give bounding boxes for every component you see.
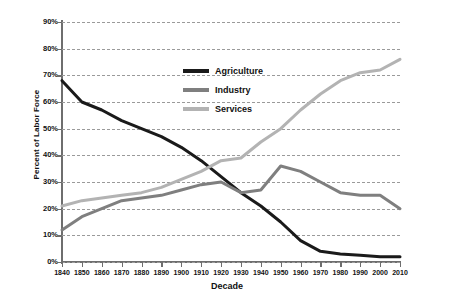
gridline: [62, 262, 400, 263]
x-axis-tick-mark: [320, 262, 321, 267]
legend-label: Services: [215, 104, 252, 114]
y-axis-tick-mark: [57, 75, 62, 76]
series-line-industry: [62, 166, 400, 230]
legend-swatch-icon: [183, 107, 209, 111]
x-axis-tick-mark: [82, 262, 83, 267]
y-axis-tick-label: 70%: [0, 70, 58, 79]
gridline: [62, 49, 400, 50]
y-axis-tick-mark: [57, 129, 62, 130]
y-axis-tick-mark: [57, 182, 62, 183]
y-axis-tick-label: 10%: [0, 230, 58, 239]
gridline: [62, 209, 400, 210]
y-axis-tick-mark: [57, 155, 62, 156]
x-axis-tick-mark: [201, 262, 202, 267]
legend-swatch-icon: [183, 69, 209, 73]
x-axis-tick-mark: [181, 262, 182, 267]
x-axis-tick-mark: [340, 262, 341, 267]
y-axis-tick-label: 90%: [0, 17, 58, 26]
legend-swatch-icon: [183, 88, 209, 92]
y-axis-tick-label: 60%: [0, 97, 58, 106]
y-axis-tick-label: 50%: [0, 124, 58, 133]
x-axis-tick-mark: [142, 262, 143, 267]
x-axis-tick-mark: [400, 262, 401, 267]
legend-item-services[interactable]: Services: [183, 104, 263, 114]
x-axis-tick-mark: [281, 262, 282, 267]
gridline: [62, 155, 400, 156]
y-axis-tick-mark: [57, 102, 62, 103]
y-axis-tick-label: 40%: [0, 150, 58, 159]
x-axis-tick-mark: [221, 262, 222, 267]
x-axis-tick-label: 2010: [387, 269, 413, 276]
gridline: [62, 235, 400, 236]
x-axis-tick-mark: [301, 262, 302, 267]
y-axis-tick-label: 30%: [0, 177, 58, 186]
gridline: [62, 22, 400, 23]
x-axis-tick-mark: [62, 262, 63, 267]
x-axis-tick-mark: [122, 262, 123, 267]
y-axis-line: [61, 20, 63, 264]
legend-label: Industry: [215, 85, 251, 95]
x-axis-tick-mark: [102, 262, 103, 267]
y-axis-tick-mark: [57, 235, 62, 236]
gridline: [62, 182, 400, 183]
legend-label: Agriculture: [215, 66, 263, 76]
y-axis-tick-mark: [57, 22, 62, 23]
gridline: [62, 129, 400, 130]
legend-item-industry[interactable]: Industry: [183, 85, 263, 95]
y-axis-tick-label: 20%: [0, 204, 58, 213]
line-chart: Percent of Labor Force Decade 0%10%20%30…: [0, 0, 454, 307]
x-axis-title: Decade: [0, 281, 454, 291]
x-axis-tick-mark: [261, 262, 262, 267]
y-axis-tick-label: 0%: [0, 257, 58, 266]
y-axis-tick-mark: [57, 209, 62, 210]
x-axis-tick-mark: [161, 262, 162, 267]
y-axis-tick-label: 80%: [0, 44, 58, 53]
x-axis-tick-mark: [380, 262, 381, 267]
x-axis-tick-mark: [241, 262, 242, 267]
y-axis-tick-mark: [57, 49, 62, 50]
x-axis-tick-mark: [360, 262, 361, 267]
chart-legend: AgricultureIndustryServices: [183, 66, 263, 114]
legend-item-agriculture[interactable]: Agriculture: [183, 66, 263, 76]
